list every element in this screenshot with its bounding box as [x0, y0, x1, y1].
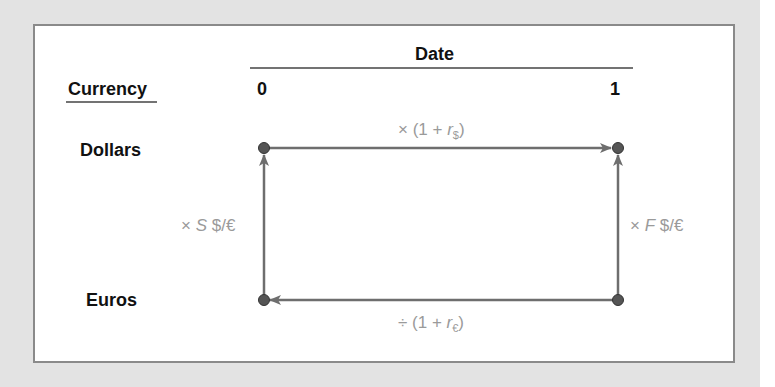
dollars-row-label: Dollars [80, 140, 141, 161]
diagram-lines [0, 0, 775, 387]
euros-row-label: Euros [86, 290, 137, 311]
node-euros-0 [259, 295, 270, 306]
node-dollars-1 [613, 143, 624, 154]
date-1-label: 1 [610, 79, 620, 100]
node-dollars-0 [259, 143, 270, 154]
op-bottom: ÷ (1 + r€) [398, 313, 464, 334]
currency-header: Currency [68, 79, 147, 100]
node-euros-1 [613, 295, 624, 306]
op-left: × S $/€ [181, 216, 235, 236]
date-header: Date [415, 44, 454, 65]
date-0-label: 0 [257, 79, 267, 100]
op-top: × (1 + r$) [398, 120, 465, 141]
op-right: × F $/€ [630, 216, 683, 236]
